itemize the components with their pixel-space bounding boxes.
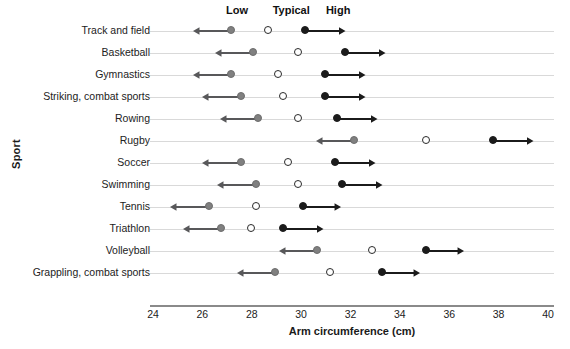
marker-low (227, 26, 235, 34)
column-header-high: High (303, 4, 373, 16)
marker-high (341, 48, 349, 56)
category-label: Tennis (10, 201, 150, 212)
category-label: Striking, combat sports (10, 91, 150, 102)
marker-low (237, 92, 245, 100)
x-tick-30: 30 (286, 308, 316, 320)
category-label-row: Triathlon (0, 223, 150, 235)
marker-typical (252, 202, 260, 210)
gridline (150, 251, 554, 252)
marker-high (331, 158, 339, 166)
x-tick-38: 38 (484, 308, 514, 320)
marker-high (489, 136, 497, 144)
category-label: Triathlon (10, 223, 150, 234)
gridline (150, 273, 554, 274)
category-label-row: Track and field (0, 25, 150, 37)
y-axis-title: Sport (10, 124, 22, 184)
category-label-row: Rugby (0, 135, 150, 147)
category-label: Grappling, combat sports (10, 267, 150, 278)
marker-low (227, 70, 235, 78)
marker-high (301, 26, 309, 34)
marker-high (422, 246, 430, 254)
category-label: Basketball (10, 47, 150, 58)
x-tick-40: 40 (533, 308, 563, 320)
marker-typical (294, 114, 302, 122)
marker-high (333, 114, 341, 122)
marker-typical (279, 92, 287, 100)
category-label-row: Striking, combat sports (0, 91, 150, 103)
marker-high (321, 70, 329, 78)
marker-typical (294, 180, 302, 188)
x-tick-36: 36 (434, 308, 464, 320)
category-label: Rowing (10, 113, 150, 124)
marker-low (254, 114, 262, 122)
category-label-row: Volleyball (0, 245, 150, 257)
category-label: Track and field (10, 25, 150, 36)
category-label: Volleyball (10, 245, 150, 256)
marker-low (252, 180, 260, 188)
marker-high (378, 268, 386, 276)
category-label-row: Soccer (0, 157, 150, 169)
category-label: Swimming (10, 179, 150, 190)
marker-typical (264, 26, 272, 34)
category-label: Gymnastics (10, 69, 150, 80)
x-axis-title: Arm circumference (cm) (150, 325, 554, 337)
x-tick-24: 24 (138, 308, 168, 320)
category-label-row: Swimming (0, 179, 150, 191)
marker-typical (284, 158, 292, 166)
marker-typical (326, 268, 334, 276)
category-label-row: Basketball (0, 47, 150, 59)
arm-circumference-chart: Sport Arm circumference (cm) LowTypicalH… (0, 0, 570, 349)
marker-low (205, 202, 213, 210)
marker-typical (274, 70, 282, 78)
category-label-row: Tennis (0, 201, 150, 213)
marker-high (338, 180, 346, 188)
marker-typical (247, 224, 255, 232)
marker-high (279, 224, 287, 232)
marker-high (321, 92, 329, 100)
marker-high (299, 202, 307, 210)
category-label: Soccer (10, 157, 150, 168)
marker-low (237, 158, 245, 166)
x-tick-28: 28 (237, 308, 267, 320)
x-tick-34: 34 (385, 308, 415, 320)
category-label-row: Grappling, combat sports (0, 267, 150, 279)
category-label-row: Rowing (0, 113, 150, 125)
category-label-row: Gymnastics (0, 69, 150, 81)
marker-typical (422, 136, 430, 144)
x-tick-26: 26 (187, 308, 217, 320)
x-axis-line (150, 305, 554, 307)
x-tick-32: 32 (336, 308, 366, 320)
marker-typical (368, 246, 376, 254)
marker-low (249, 48, 257, 56)
category-label: Rugby (10, 135, 150, 146)
marker-typical (294, 48, 302, 56)
